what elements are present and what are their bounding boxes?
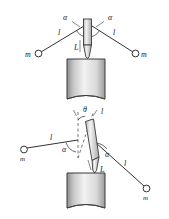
rod-bottom (86, 119, 100, 161)
mass-label-left-bottom: m (20, 155, 25, 163)
cylinder-bottom (67, 173, 105, 208)
length-tick-bottom (88, 160, 91, 170)
alpha-leader-right-top (96, 22, 104, 28)
string-length-label-left-bottom: l (50, 133, 53, 142)
panel-top: α α l l L m m (25, 13, 147, 99)
figure-canvas: α α l l L m m (0, 0, 169, 219)
theta-leader-left (74, 110, 77, 116)
rod-length-label-top: L (73, 43, 79, 52)
angle-arc-theta (78, 116, 85, 120)
rod-top (84, 19, 92, 45)
rod-axis-label-bottom: l (101, 107, 104, 116)
alpha-leader-left-top (72, 22, 80, 28)
mass-left-bottom (21, 146, 28, 153)
alpha-label-left-bottom: α (62, 145, 67, 154)
theta-label: θ (83, 105, 87, 114)
mass-label-left-top: m (25, 50, 31, 59)
theta-leader-right (93, 110, 97, 116)
panel-bottom: θ l l l α α L m m (20, 105, 150, 208)
mass-label-right-top: m (141, 50, 147, 59)
rod-tip-top (84, 45, 92, 59)
rod-length-label-bottom: L (99, 165, 105, 174)
string-left-bottom (27, 140, 78, 148)
string-length-label-right-bottom: l (124, 159, 127, 168)
alpha-label-left-top: α (63, 13, 68, 22)
physics-figure: α α l l L m m (0, 0, 169, 219)
mass-right-top (132, 50, 139, 57)
angle-arc-left-bottom (66, 143, 76, 153)
mass-right-bottom (143, 185, 150, 192)
alpha-label-right-top: α (108, 13, 113, 22)
mass-label-right-bottom: m (143, 194, 148, 202)
mass-left-top (35, 50, 42, 57)
string-length-label-right-top: l (113, 28, 116, 37)
string-length-label-left-top: l (58, 28, 61, 37)
cylinder-top (67, 59, 105, 99)
